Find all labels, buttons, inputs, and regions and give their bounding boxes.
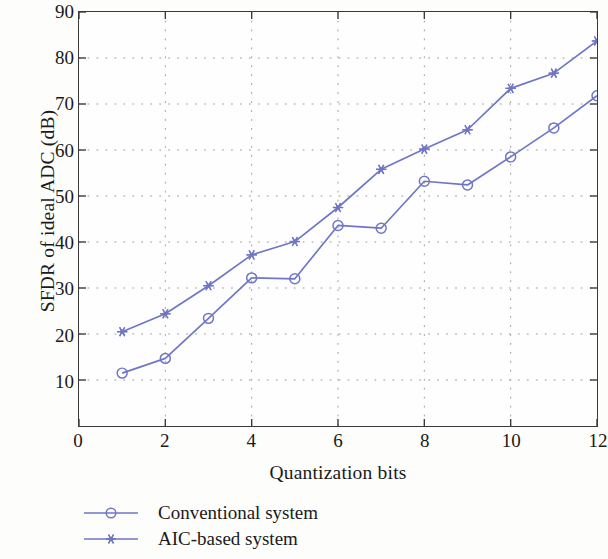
series-line bbox=[122, 41, 597, 332]
marker-star bbox=[117, 327, 127, 336]
legend: Conventional systemAIC-based system bbox=[82, 500, 502, 552]
plot-area bbox=[78, 11, 598, 427]
x-tick-label: 8 bbox=[420, 431, 430, 450]
x-tick-label: 10 bbox=[502, 431, 521, 450]
y-tick-label: 20 bbox=[28, 326, 74, 345]
y-tick-label: 80 bbox=[28, 48, 74, 67]
y-tick-label: 10 bbox=[28, 372, 74, 391]
legend-item[interactable]: Conventional system bbox=[82, 500, 502, 526]
x-tick-label: 4 bbox=[247, 431, 257, 450]
series-2 bbox=[117, 36, 597, 336]
legend-star-icon bbox=[82, 528, 140, 550]
plot-canvas bbox=[79, 12, 597, 426]
y-tick-label: 60 bbox=[28, 141, 74, 160]
y-tick-label: 40 bbox=[28, 233, 74, 252]
marker-star bbox=[106, 535, 116, 544]
gridlines bbox=[79, 12, 597, 426]
x-tick-label: 2 bbox=[160, 431, 170, 450]
y-axis-tick-labels: 908070605040302010 bbox=[22, 0, 74, 440]
x-tick-label: 12 bbox=[589, 431, 608, 450]
series-1 bbox=[117, 91, 597, 378]
y-tick-label: 70 bbox=[28, 94, 74, 113]
y-tick-label: 30 bbox=[28, 279, 74, 298]
legend-circle-icon bbox=[82, 502, 140, 524]
x-tick-label: 0 bbox=[73, 431, 83, 450]
series-line bbox=[122, 96, 597, 373]
legend-label: AIC-based system bbox=[158, 528, 298, 550]
x-axis-tick-labels: 024681012 bbox=[78, 431, 598, 461]
x-axis-title: Quantization bits bbox=[78, 462, 598, 484]
y-tick-label: 50 bbox=[28, 187, 74, 206]
legend-item[interactable]: AIC-based system bbox=[82, 526, 502, 552]
legend-label: Conventional system bbox=[158, 502, 318, 524]
x-tick-label: 6 bbox=[333, 431, 343, 450]
y-tick-label: 90 bbox=[28, 2, 74, 21]
